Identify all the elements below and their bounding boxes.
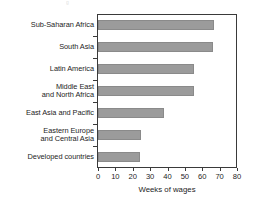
x-axis-title: Weeks of wages <box>97 185 237 195</box>
x-axis-tick <box>237 168 238 171</box>
category-tick <box>93 58 97 59</box>
category-label-line: East Asia and Pacific <box>0 109 94 117</box>
category-label-line: and Central Asia <box>0 135 94 143</box>
x-axis-tick-label: 0 <box>89 172 107 181</box>
x-axis-tick-label: 30 <box>141 172 159 181</box>
bar <box>98 86 194 96</box>
category-label-line: and North Africa <box>0 91 94 99</box>
x-axis-tick <box>115 168 116 171</box>
category-tick <box>93 124 97 125</box>
x-axis-tick <box>185 168 186 171</box>
category-label-line: South Asia <box>0 43 94 51</box>
category-tick <box>93 102 97 103</box>
bar <box>98 42 213 52</box>
category-label-line: Latin America <box>0 65 94 73</box>
category-label: Latin America <box>0 65 94 73</box>
cropped-title-sliver: g <box>66 0 106 5</box>
x-axis-tick <box>98 168 99 171</box>
bar-chart: g Sub-Saharan AfricaSouth AsiaLatin Amer… <box>0 0 253 206</box>
x-axis-tick-label: 80 <box>228 172 246 181</box>
x-axis-tick <box>133 168 134 171</box>
category-label-line: Sub-Saharan Africa <box>0 21 94 29</box>
category-tick <box>93 146 97 147</box>
x-axis-tick-label: 50 <box>176 172 194 181</box>
bar <box>98 20 214 30</box>
bar <box>98 64 194 74</box>
x-axis-tick-label: 20 <box>124 172 142 181</box>
category-label: South Asia <box>0 43 94 51</box>
bars-layer <box>98 14 237 168</box>
category-axis-labels: Sub-Saharan AfricaSouth AsiaLatin Americ… <box>0 14 94 168</box>
category-label: Eastern Europeand Central Asia <box>0 127 94 144</box>
x-axis-tick-label: 60 <box>193 172 211 181</box>
category-tick <box>93 80 97 81</box>
x-axis-tick-label: 10 <box>106 172 124 181</box>
category-label: Sub-Saharan Africa <box>0 21 94 29</box>
x-axis-tick <box>168 168 169 171</box>
x-axis-tick <box>202 168 203 171</box>
x-axis-tick <box>150 168 151 171</box>
bar <box>98 108 164 118</box>
x-axis-tick <box>220 168 221 171</box>
category-label: Developed countries <box>0 153 94 161</box>
x-axis-tick-label: 70 <box>211 172 229 181</box>
bar <box>98 130 141 140</box>
x-axis-tick-label: 40 <box>159 172 177 181</box>
bar <box>98 152 140 162</box>
category-label: Middle Eastand North Africa <box>0 83 94 100</box>
category-tick <box>93 36 97 37</box>
category-label-line: Developed countries <box>0 153 94 161</box>
category-label: East Asia and Pacific <box>0 109 94 117</box>
